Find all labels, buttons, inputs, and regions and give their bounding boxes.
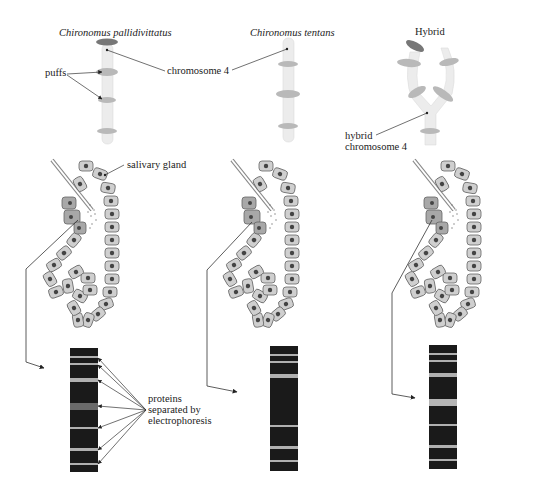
proteins-label-line3: electrophoresis xyxy=(148,415,212,427)
hybrid-chromosome-label-line2: chromosome 4 xyxy=(345,141,407,153)
salivary-gland-3 xyxy=(404,160,481,328)
protein-band xyxy=(429,360,457,362)
dark-puff xyxy=(96,39,118,46)
protein-band xyxy=(70,363,98,365)
salivary-gland-2 xyxy=(222,160,299,328)
protein-band xyxy=(70,463,98,465)
column-title-tentans: Chironomus tentans xyxy=(250,27,335,39)
protein-band xyxy=(70,448,98,451)
protein-band xyxy=(429,424,457,426)
column-title-pallidivittatus: Chironomus pallidivittatus xyxy=(59,27,172,39)
protein-band xyxy=(70,356,98,358)
protein-band xyxy=(270,460,298,462)
puff xyxy=(278,123,298,129)
protein-band xyxy=(429,445,457,448)
protein-band xyxy=(429,459,457,461)
chromosome-pallidivittatus xyxy=(96,39,118,145)
gel-tentans xyxy=(270,346,298,471)
protein-band xyxy=(70,403,98,410)
protein-band xyxy=(429,399,457,406)
protein-band xyxy=(270,354,298,356)
column-title-hybrid: Hybrid xyxy=(415,26,445,38)
protein-band xyxy=(270,374,298,378)
chromosome-hybrid xyxy=(397,38,460,145)
protein-band xyxy=(429,373,457,377)
protein-arrows xyxy=(98,358,146,464)
puff xyxy=(420,128,440,134)
salivary-gland-label: salivary gland xyxy=(127,159,186,171)
diagram-canvas xyxy=(0,0,544,494)
salivary-gland-1 xyxy=(42,160,119,328)
puff xyxy=(97,128,117,134)
protein-band xyxy=(70,427,98,429)
protein-band xyxy=(270,425,298,427)
protein-band xyxy=(70,378,98,382)
puffs-label: puffs xyxy=(45,67,66,79)
protein-band xyxy=(429,353,457,355)
protein-band xyxy=(270,446,298,449)
gel-pallidivittatus xyxy=(70,348,98,472)
chromosome-tentans xyxy=(276,38,300,142)
gel-hybrid xyxy=(429,345,457,469)
puff xyxy=(276,90,300,98)
chromosome-4-label: chromosome 4 xyxy=(167,65,229,77)
puff xyxy=(278,61,298,67)
protein-band xyxy=(270,361,298,363)
